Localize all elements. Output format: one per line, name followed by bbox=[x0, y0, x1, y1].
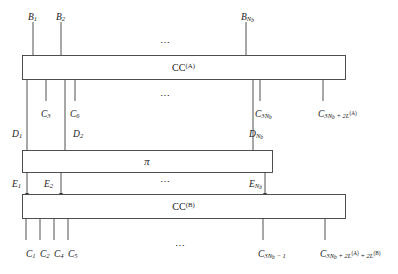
output-label-c: C1 bbox=[26, 250, 36, 260]
mid-label-e: E2 bbox=[44, 180, 53, 190]
circuit-diagram: CC(A)πCC(B)B1B2BNb⋯C3C6C3NbC3Nb + 2L(A)D… bbox=[0, 0, 398, 274]
box-label-pi: π bbox=[144, 156, 149, 167]
output-label-c: C5 bbox=[68, 250, 78, 260]
mid-label-d: DNb bbox=[249, 130, 263, 140]
mid-label-c: C3 bbox=[41, 110, 51, 120]
ellipsis-mid-upper: ⋯ bbox=[160, 90, 171, 101]
box-label-cc-a: CC(A) bbox=[172, 63, 195, 73]
box-layer bbox=[23, 56, 346, 219]
output-label-c: C3Nb + 2L(A) + 2L(B) bbox=[320, 250, 381, 260]
mid-label-d: D1 bbox=[12, 130, 22, 140]
mid-label-c: C3Nb bbox=[255, 110, 272, 120]
output-label-c: C4 bbox=[54, 250, 64, 260]
mid-label-e: E1 bbox=[12, 180, 21, 190]
diagram-canvas bbox=[0, 0, 398, 274]
ellipsis-mid-lower: ⋯ bbox=[160, 176, 171, 187]
box-label-cc-b: CC(B) bbox=[172, 202, 194, 212]
mid-label-c: C3Nb + 2L(A) bbox=[318, 110, 357, 120]
output-label-c: C2 bbox=[40, 250, 50, 260]
ellipsis-outputs-bottom: ⋯ bbox=[175, 240, 186, 251]
mid-label-d: D2 bbox=[73, 130, 83, 140]
ellipsis-inputs-top: ⋯ bbox=[160, 37, 171, 48]
mid-label-c: C6 bbox=[70, 110, 80, 120]
output-label-c: C3Nb − 1 bbox=[258, 250, 286, 260]
input-label-b: BNb bbox=[241, 13, 254, 23]
input-label-b: B2 bbox=[56, 13, 65, 23]
input-label-b: B1 bbox=[28, 13, 37, 23]
mid-label-e: ENb bbox=[249, 180, 262, 190]
